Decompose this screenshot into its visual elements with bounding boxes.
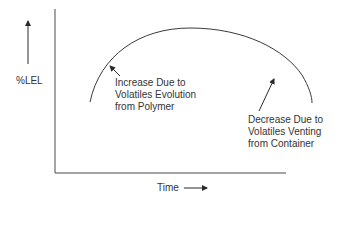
increase-annotation-line-3: from Polymer (115, 101, 196, 113)
increase-annotation-line-1: Increase Due to (115, 77, 196, 89)
increase-annotation: Increase Due to Volatiles Evolution from… (115, 77, 196, 113)
decrease-annotation-line-1: Decrease Due to (248, 114, 323, 126)
y-axis-label: %LEL (16, 75, 43, 87)
decrease-pointer-arrow-icon (259, 79, 274, 111)
decrease-annotation-line-3: from Container (248, 138, 323, 150)
increase-annotation-line-2: Volatiles Evolution (115, 89, 196, 101)
x-axis-label: Time (157, 182, 179, 194)
decrease-annotation-line-2: Volatiles Venting (248, 126, 323, 138)
decrease-annotation: Decrease Due to Volatiles Venting from C… (248, 114, 323, 150)
increase-pointer-arrow-icon (110, 66, 120, 76)
